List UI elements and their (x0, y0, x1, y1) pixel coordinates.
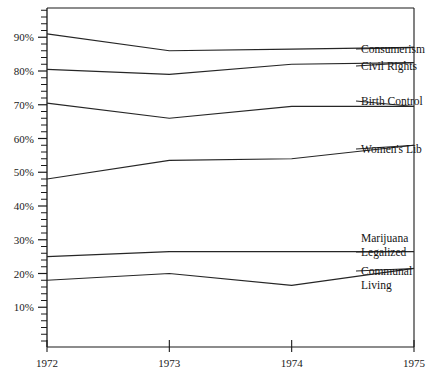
line-chart: 10%20%30%40%50%60%70%80%90% 197219731974… (0, 0, 438, 377)
y-tick-label: 40% (14, 200, 34, 212)
series-labels: Consumerism Civil Rights Birth Control W… (361, 43, 425, 292)
series-label-birth-control: Birth Control (361, 95, 423, 107)
x-tick-label-1973: 1973 (158, 357, 181, 369)
series-line-women-s-lib (47, 145, 414, 179)
series-label-communal-line2: Living (361, 279, 392, 292)
y-axis (38, 8, 47, 347)
series-line-birth-control (47, 103, 414, 118)
series-line-consumerism (47, 34, 414, 51)
series-line-civil-rights (47, 63, 414, 75)
x-tick-label-1972: 1972 (36, 357, 58, 369)
x-axis-tick-labels: 1972197319741975 (36, 357, 426, 369)
y-tick-label: 90% (14, 31, 34, 43)
chart-canvas: 10%20%30%40%50%60%70%80%90% 197219731974… (0, 0, 438, 377)
series-label-civil-rights: Civil Rights (361, 60, 417, 73)
y-tick-label: 80% (14, 65, 34, 77)
series-label-consumerism: Consumerism (361, 43, 425, 55)
x-axis (47, 340, 414, 352)
series-lines (47, 34, 414, 285)
y-tick-label: 70% (14, 99, 34, 111)
x-tick-label-1974: 1974 (281, 357, 304, 369)
y-tick-label: 20% (14, 268, 34, 280)
series-label-communal-line1: Communal (361, 265, 412, 277)
y-tick-label: 30% (14, 234, 34, 246)
y-axis-tick-labels: 10%20%30%40%50%60%70%80%90% (14, 31, 34, 313)
series-label-womens-lib: Women's Lib (361, 143, 422, 155)
y-tick-label: 10% (14, 301, 34, 313)
series-label-marijuana-line2: Legalized (361, 246, 407, 259)
y-tick-label: 50% (14, 166, 34, 178)
plot-frame (47, 8, 414, 347)
series-label-marijuana-line1: Marijuana (361, 232, 408, 245)
y-axis-major-ticks (38, 37, 47, 341)
x-axis-ticks (47, 340, 414, 352)
y-tick-label: 60% (14, 133, 34, 145)
x-tick-label-1975: 1975 (403, 357, 426, 369)
